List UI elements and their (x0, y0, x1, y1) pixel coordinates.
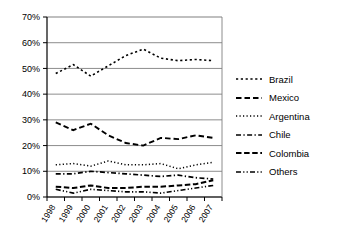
series-line-colombia (56, 180, 214, 188)
legend-swatch-argentina (236, 111, 262, 121)
y-axis-tick-label: 60% (22, 38, 40, 48)
chart-canvas: 0%10%20%30%40%50%60%70%19981999200020012… (0, 0, 232, 245)
legend-item-others: Others (236, 163, 342, 182)
y-axis-tick-label: 0% (27, 192, 40, 202)
x-axis-tick-label: 2003 (126, 203, 145, 225)
series-line-brazil (56, 49, 214, 76)
x-axis-tick-label: 2005 (161, 203, 180, 225)
legend-swatch-chile (236, 130, 262, 140)
x-axis-tick-label: 1998 (39, 203, 58, 225)
y-axis-tick-label: 70% (22, 12, 40, 22)
legend-label-colombia: Colombia (269, 149, 309, 159)
series-line-chile (56, 171, 214, 179)
legend-item-mexico: Mexico (236, 89, 342, 108)
chart-legend: Brazil Mexico Argentina Chile Colombia O… (236, 70, 342, 181)
legend-label-argentina: Argentina (269, 112, 310, 122)
line-chart: 0%10%20%30%40%50%60%70%19981999200020012… (0, 0, 232, 245)
legend-label-chile: Chile (269, 130, 291, 140)
y-axis-tick-label: 30% (22, 115, 40, 125)
x-axis-tick-label: 2006 (179, 203, 198, 225)
y-axis-tick-label: 20% (22, 141, 40, 151)
series-line-others (56, 185, 214, 193)
chart-screenshot: 0%10%20%30%40%50%60%70%19981999200020012… (0, 0, 342, 245)
legend-label-others: Others (269, 167, 298, 177)
x-axis-tick-label: 2004 (144, 203, 163, 225)
y-axis-tick-label: 40% (22, 89, 40, 99)
legend-label-brazil: Brazil (269, 75, 293, 85)
legend-item-brazil: Brazil (236, 70, 342, 89)
series-line-argentina (56, 161, 214, 169)
legend-swatch-mexico (236, 93, 262, 103)
x-axis-tick-label: 2001 (91, 203, 110, 225)
y-axis-tick-label: 50% (22, 64, 40, 74)
x-axis-tick-label: 2007 (196, 203, 215, 225)
y-axis-tick-label: 10% (22, 166, 40, 176)
legend-label-mexico: Mexico (269, 93, 299, 103)
legend-swatch-brazil (236, 74, 262, 84)
legend-item-chile: Chile (236, 126, 342, 145)
legend-swatch-others (236, 167, 262, 177)
x-axis-tick-label: 1999 (56, 203, 75, 225)
x-axis-tick-label: 2000 (74, 203, 93, 225)
legend-item-colombia: Colombia (236, 144, 342, 163)
series-line-mexico (56, 122, 214, 145)
legend-item-argentina: Argentina (236, 107, 342, 126)
legend-swatch-colombia (236, 148, 262, 158)
x-axis-tick-label: 2002 (109, 203, 128, 225)
